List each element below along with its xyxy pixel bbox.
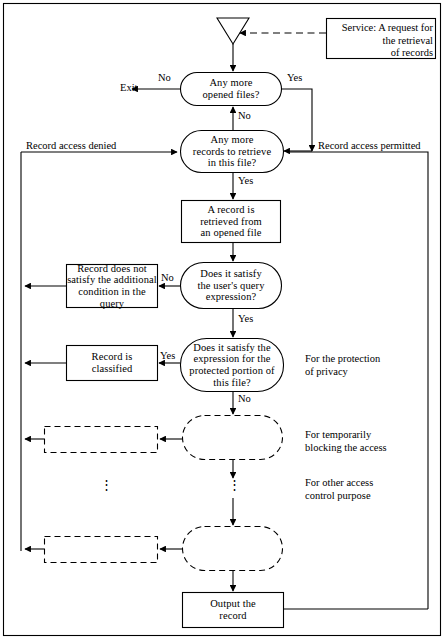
- record-retrieved-shape: [182, 201, 281, 243]
- opened-files-shape: [181, 73, 282, 106]
- dashed-action-2-shape: [45, 537, 158, 563]
- record-access-permitted-label: Record access permitted: [318, 140, 421, 152]
- flowchart-vector-layer: [0, 0, 444, 639]
- record-access-denied-label: Record access denied: [26, 140, 116, 152]
- exit-label: Exit: [120, 82, 138, 94]
- output-loop-line: [287, 152, 428, 609]
- query-expression-shape: [181, 263, 282, 309]
- ellipsis-left: ⋮: [100, 478, 113, 491]
- protected-portion-shape: [181, 339, 284, 392]
- opened-files-no-label: No: [158, 72, 171, 84]
- records-no-label: No: [238, 110, 251, 122]
- opened-files-yes-path: [281, 89, 312, 151]
- record-classified-shape: [67, 346, 158, 381]
- opened-files-yes-label: Yes: [287, 72, 302, 84]
- dashed-decision-1-shape: [183, 416, 283, 460]
- protected-no-label: No: [238, 393, 251, 405]
- start-triangle-shape: [217, 18, 249, 44]
- protected-yes-label: Yes: [160, 350, 175, 362]
- query-yes-label: Yes: [238, 313, 253, 325]
- record-not-satisfy-shape: [67, 265, 158, 308]
- dashed-decision-2-shape: [183, 527, 283, 571]
- ellipsis-center: ⋮: [228, 478, 241, 491]
- flowchart-canvas: Service: A request for the retrieval of …: [0, 0, 444, 639]
- dashed-action-1-shape: [45, 427, 158, 453]
- query-no-label: No: [161, 272, 174, 284]
- note-privacy: For the protection of privacy: [305, 352, 430, 379]
- note-temporary-block: For temporarily blocking the access: [305, 428, 430, 455]
- output-record-shape: [183, 593, 284, 628]
- any-more-records-shape: [181, 131, 284, 173]
- service-box-label: Service: A request for the retrieval of …: [330, 22, 433, 60]
- records-yes-label: Yes: [238, 175, 253, 187]
- note-other-purpose: For other access control purpose: [305, 476, 430, 503]
